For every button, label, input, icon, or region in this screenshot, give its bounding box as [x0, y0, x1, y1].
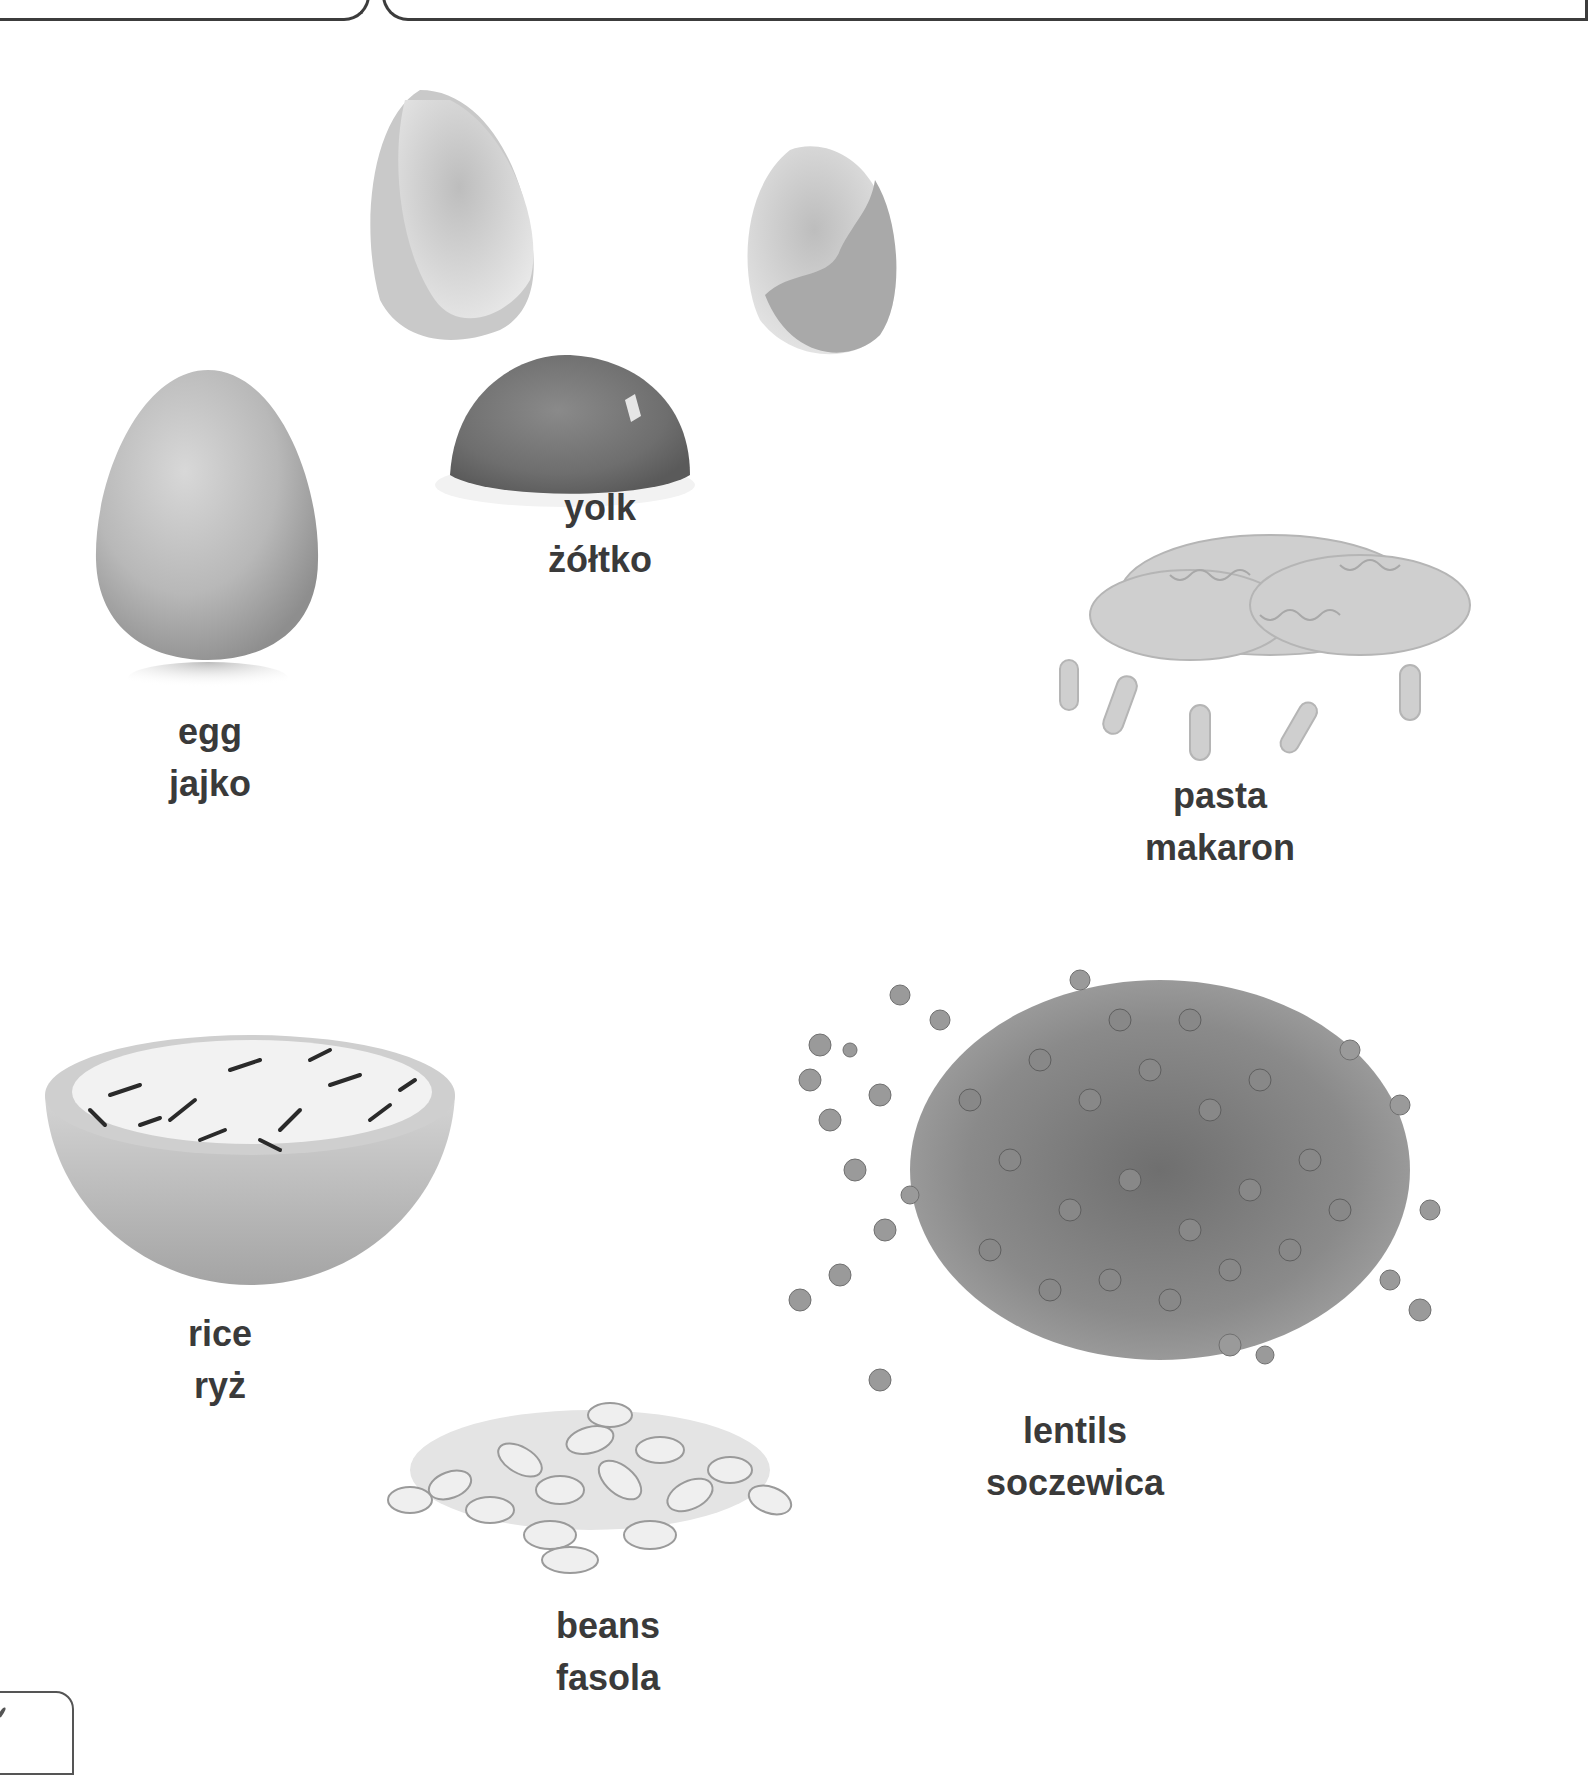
- label-pasta-en: pasta: [1120, 770, 1320, 822]
- label-yolk-pl: żółtko: [500, 534, 700, 586]
- label-beans-en: beans: [508, 1600, 708, 1652]
- label-yolk-en: yolk: [500, 482, 700, 534]
- label-pasta: pasta makaron: [1120, 770, 1320, 874]
- header-tab-frame-left: [0, 0, 370, 21]
- fusilli-pasta-image: [1040, 505, 1500, 755]
- label-pasta-pl: makaron: [1120, 822, 1320, 874]
- label-lentils-en: lentils: [925, 1405, 1225, 1457]
- page-corner-tab: [0, 1691, 74, 1775]
- label-rice-en: rice: [120, 1308, 320, 1360]
- label-rice-pl: ryż: [120, 1360, 320, 1412]
- label-egg: egg jajko: [110, 706, 310, 810]
- label-egg-en: egg: [110, 706, 310, 758]
- label-rice: rice ryż: [120, 1308, 320, 1412]
- corner-doodle-icon: [0, 1701, 18, 1741]
- label-beans-pl: fasola: [508, 1652, 708, 1704]
- label-beans: beans fasola: [508, 1600, 708, 1704]
- yolk-and-shells-image: [360, 80, 1100, 520]
- label-egg-pl: jajko: [110, 758, 310, 810]
- lentils-pile-image: [790, 960, 1490, 1400]
- header-tab-frame-right: [382, 0, 1588, 21]
- label-lentils-pl: soczewica: [925, 1457, 1225, 1509]
- rice-bowl-image: [30, 1000, 470, 1300]
- label-yolk: yolk żółtko: [500, 482, 700, 586]
- white-beans-image: [370, 1370, 820, 1590]
- egg-image: [80, 360, 340, 700]
- label-lentils: lentils soczewica: [925, 1405, 1225, 1509]
